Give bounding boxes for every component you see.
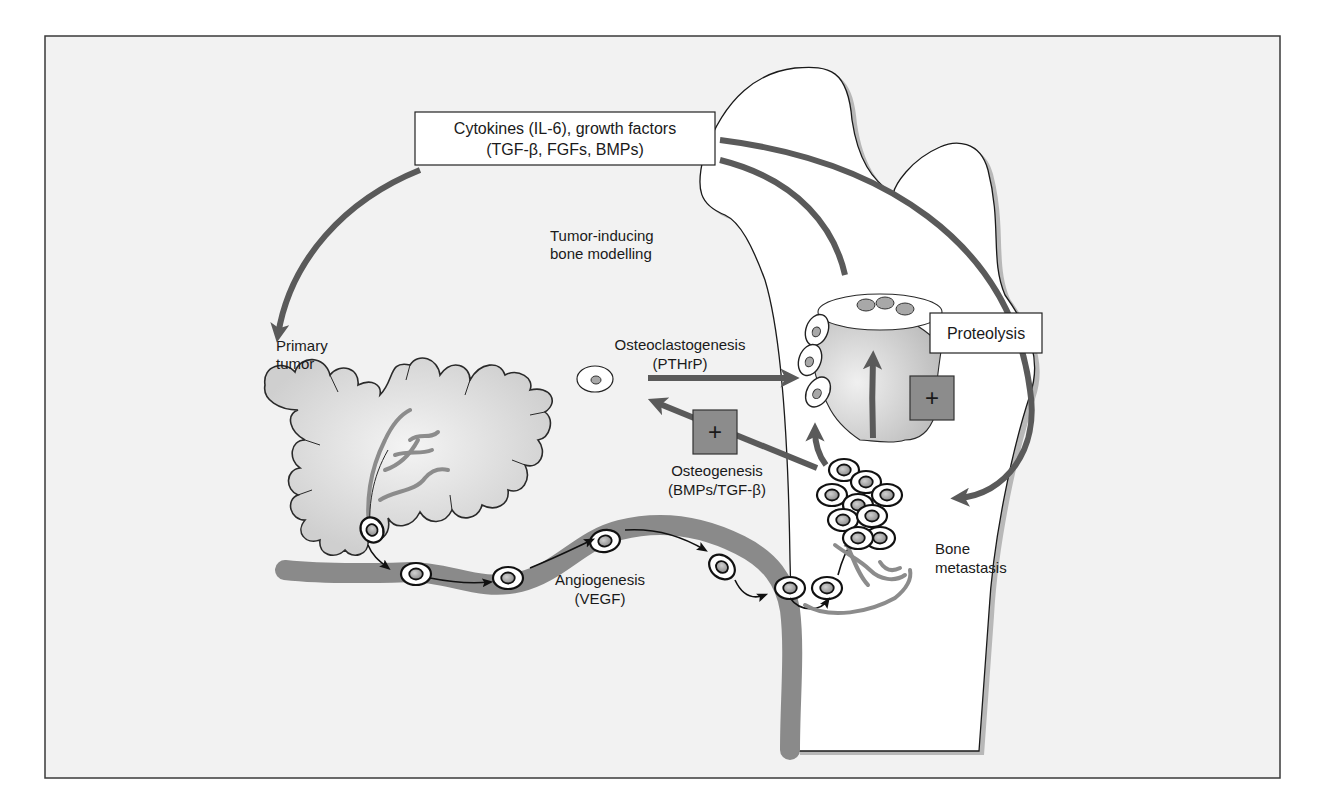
metastatic-cell [843, 527, 873, 549]
osteoblast-nucleus [857, 299, 875, 311]
proteolysis-label: Proteolysis [947, 325, 1025, 342]
tumor-cell [775, 577, 805, 599]
osteoclast-precursor [577, 366, 613, 392]
cytokines-box: Cytokines (IL-6), growth factors (TGF-β,… [415, 112, 715, 165]
bone-metastasis-line2: metastasis [935, 559, 1007, 576]
proteolysis-box: Proteolysis [930, 313, 1042, 353]
osteoblast-nucleus [896, 303, 914, 315]
arrow-cluster-to-lesion [872, 358, 873, 438]
plus-box-proteolysis: + [910, 376, 954, 420]
angiogenesis-line2: (VEGF) [575, 590, 626, 607]
tumor-cell [493, 567, 523, 589]
tumor-inducing-line2: bone modelling [550, 245, 652, 262]
bone-metastasis-diagram: + + Cytokines (IL-6), growth factors (TG… [0, 0, 1319, 811]
metastatic-cell [872, 484, 902, 506]
tumor-cell [812, 577, 842, 599]
tumor-cell [401, 563, 431, 585]
osteoclastogenesis-line2: (PTHrP) [653, 355, 708, 372]
osteoclastogenesis-line1: Osteoclastogenesis [615, 336, 746, 353]
cytokines-line2: (TGF-β, FGFs, BMPs) [486, 141, 644, 158]
cytokines-line1: Cytokines (IL-6), growth factors [454, 120, 676, 137]
bone-metastasis-line1: Bone [935, 540, 970, 557]
plus-symbol: + [925, 384, 939, 411]
osteogenesis-line2: (BMPs/TGF-β) [668, 481, 766, 498]
osteoblast-nucleus [876, 297, 894, 309]
angiogenesis-line1: Angiogenesis [555, 571, 645, 588]
primary-tumor-line2: tumor [276, 355, 314, 372]
primary-tumor-line1: Primary [276, 337, 328, 354]
tumor-inducing-line1: Tumor-inducing [550, 227, 654, 244]
osteogenesis-line1: Osteogenesis [671, 462, 763, 479]
plus-box-osteogenesis: + [693, 410, 737, 454]
metastatic-cell [857, 505, 887, 527]
plus-symbol: + [708, 418, 722, 445]
